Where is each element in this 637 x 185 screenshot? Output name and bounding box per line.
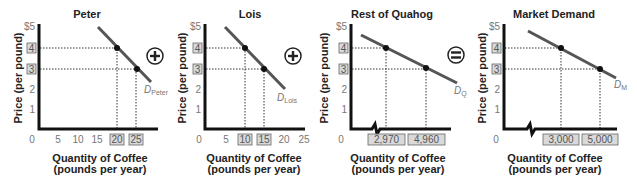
guide-line <box>206 69 264 129</box>
panel-peter: Peter Price (per pound) $5 4 3 2 1 DPete… <box>12 8 169 175</box>
y-tick: 1 <box>341 104 347 115</box>
x-tick: 25 <box>298 134 310 145</box>
x-tick: 10 <box>239 134 251 145</box>
x-axis-label: (pounds per year) <box>208 163 301 175</box>
x-axis-label: (pounds per year) <box>352 163 445 175</box>
x-tick: 4,960 <box>414 134 439 145</box>
curve-label: DPeter <box>144 84 169 96</box>
y-axis-label: Price (per pound) <box>318 32 330 123</box>
x-tick: 5 <box>55 134 61 145</box>
panel-rest-of-quahog: Rest of Quahog Price (per pound) $5 4 3 … <box>318 8 467 175</box>
x-tick: 15 <box>91 134 103 145</box>
panel-market-demand: Market Demand Price (per pound) $5 4 3 2… <box>476 8 627 175</box>
y-tick: 3 <box>341 64 347 75</box>
y-tick: 3 <box>195 64 201 75</box>
panel-title: Market Demand <box>513 8 595 20</box>
y-tick: 3 <box>29 64 35 75</box>
y-tick: 4 <box>341 43 347 54</box>
y-tick: 1 <box>29 104 35 115</box>
data-point <box>597 66 603 72</box>
y-tick: 2 <box>341 84 347 95</box>
curve-label: DM <box>614 79 627 91</box>
data-point <box>383 45 389 51</box>
panel-title: Lois <box>239 8 262 20</box>
y-tick: $5 <box>336 21 348 32</box>
x-tick: 10 <box>72 134 84 145</box>
y-tick: 1 <box>494 104 500 115</box>
demand-curve-market <box>528 31 616 78</box>
guide-line <box>505 69 600 129</box>
y-axis-label: Price (per pound) <box>476 32 488 123</box>
guide-line <box>352 48 386 129</box>
x-tick-origin: 0 <box>29 134 35 145</box>
x-tick-origin: 0 <box>338 134 344 145</box>
x-tick: 20 <box>111 134 123 145</box>
x-axis-label: (pounds per year) <box>54 163 147 175</box>
y-tick: 4 <box>29 43 35 54</box>
y-tick: 4 <box>195 43 201 54</box>
panel-lois: Lois Price (per pound) $5 4 3 2 1 DLois … <box>176 8 310 175</box>
y-tick: 3 <box>494 64 500 75</box>
guide-line <box>206 48 245 129</box>
y-tick: $5 <box>489 21 501 32</box>
x-tick: 5 <box>223 134 229 145</box>
guide-line <box>505 48 561 129</box>
y-tick: 4 <box>494 43 500 54</box>
curve-label: DQ <box>454 85 467 98</box>
axes-with-break <box>351 24 451 134</box>
y-tick: $5 <box>24 21 36 32</box>
y-axis-label: Price (per pound) <box>12 32 24 123</box>
axes <box>205 24 305 129</box>
x-tick: 5,000 <box>587 134 612 145</box>
y-tick: 2 <box>494 84 500 95</box>
data-point <box>261 66 267 72</box>
x-tick: 3,000 <box>548 134 573 145</box>
demand-curve-peter <box>98 27 151 82</box>
data-point <box>242 45 248 51</box>
data-point <box>114 45 120 51</box>
x-tick: 25 <box>130 134 142 145</box>
market-demand-figure: Peter Price (per pound) $5 4 3 2 1 DPete… <box>0 0 637 185</box>
y-axis-label: Price (per pound) <box>176 32 188 123</box>
x-tick: 20 <box>278 134 290 145</box>
equals-icon <box>448 47 464 63</box>
x-tick-origin: 0 <box>493 134 499 145</box>
demand-curve-quahog <box>361 35 457 83</box>
data-point <box>558 45 564 51</box>
x-tick: 15 <box>258 134 270 145</box>
y-tick: $5 <box>190 21 202 32</box>
data-point <box>423 65 429 71</box>
x-tick: 2,970 <box>374 134 399 145</box>
plus-icon <box>285 48 301 64</box>
x-axis-label: (pounds per year) <box>509 163 602 175</box>
plus-icon <box>147 48 163 64</box>
guide-line <box>40 48 117 129</box>
guide-line <box>40 69 136 129</box>
guide-line <box>352 69 426 129</box>
y-tick: 1 <box>195 104 201 115</box>
x-tick-origin: 0 <box>196 134 202 145</box>
axes <box>39 24 158 129</box>
y-tick: 2 <box>195 84 201 95</box>
panel-title: Rest of Quahog <box>351 8 433 20</box>
demand-curve-lois <box>225 27 285 89</box>
y-tick: 2 <box>29 84 35 95</box>
data-point <box>134 66 140 72</box>
curve-label: DLois <box>277 92 298 104</box>
panel-title: Peter <box>73 8 101 20</box>
